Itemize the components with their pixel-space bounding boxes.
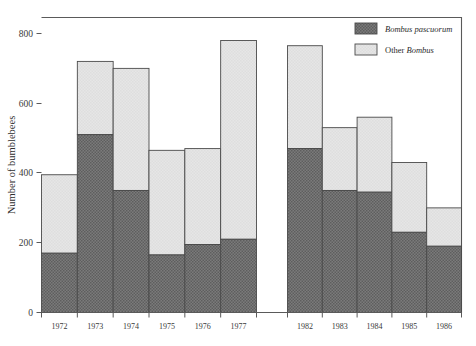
bar-segment-other-bombus [357, 117, 392, 192]
bar-segment-other-bombus [149, 150, 185, 255]
y-tick-label-600: 600 [19, 99, 34, 109]
bumblebee-stacked-bar-chart: 800 600 400 200 0 Number of bumblebees 1… [0, 0, 476, 346]
bar-segment-other-bombus [392, 163, 427, 233]
bar-segment-bombus-pascuorum [42, 253, 78, 312]
x-tick-label-1984: 1984 [367, 322, 383, 331]
bar-segment-other-bombus [288, 46, 323, 149]
x-tick-label-1973: 1973 [87, 322, 103, 331]
y-tick-label-0: 0 [28, 308, 33, 318]
x-tick-label-1974: 1974 [123, 322, 139, 331]
y-tick-label-800: 800 [19, 29, 34, 39]
legend-label-other-bombus: Other Bombus [385, 45, 435, 55]
legend-label-other-prefix: Other [385, 45, 406, 55]
legend-swatch-other-bombus [355, 44, 377, 55]
y-tick-label-200: 200 [19, 238, 34, 248]
x-tick-label-1986: 1986 [436, 322, 452, 331]
bar-segment-bombus-pascuorum [427, 246, 462, 312]
bar-segment-other-bombus [185, 149, 221, 245]
bar-segment-other-bombus [427, 208, 462, 246]
bar-segment-other-bombus [322, 128, 357, 191]
bar-segment-bombus-pascuorum [149, 255, 185, 313]
bar-segment-bombus-pascuorum [357, 192, 392, 312]
bar-segment-bombus-pascuorum [288, 149, 323, 313]
legend-label-other-italic: Bombus [406, 45, 434, 55]
x-tick-label-1975: 1975 [159, 322, 175, 331]
x-tick-label-1985: 1985 [401, 322, 417, 331]
x-tick-label-1972: 1972 [51, 322, 67, 331]
bar-segment-bombus-pascuorum [185, 244, 221, 312]
bar-segment-other-bombus [221, 40, 257, 239]
bar-segment-bombus-pascuorum [221, 239, 257, 312]
x-tick-label-1983: 1983 [332, 322, 348, 331]
legend-swatch-bombus-pascuorum [355, 23, 377, 34]
bar-segment-bombus-pascuorum [392, 232, 427, 312]
bar-segment-bombus-pascuorum [322, 190, 357, 312]
y-axis-title: Number of bumblebees [6, 116, 17, 215]
x-tick-label-1977: 1977 [231, 322, 247, 331]
x-tick-label-1976: 1976 [195, 322, 211, 331]
chart-canvas: 800 600 400 200 0 Number of bumblebees 1… [0, 0, 476, 346]
bar-segment-other-bombus [77, 61, 113, 134]
bar-segment-bombus-pascuorum [77, 135, 113, 313]
bar-segment-other-bombus [42, 175, 78, 253]
legend-label-bombus-pascuorum: Bombus pascuorum [385, 24, 452, 34]
x-tick-label-1982: 1982 [297, 322, 313, 331]
bar-segment-bombus-pascuorum [113, 190, 149, 312]
y-tick-label-400: 400 [19, 168, 34, 178]
bar-segment-other-bombus [113, 68, 149, 190]
